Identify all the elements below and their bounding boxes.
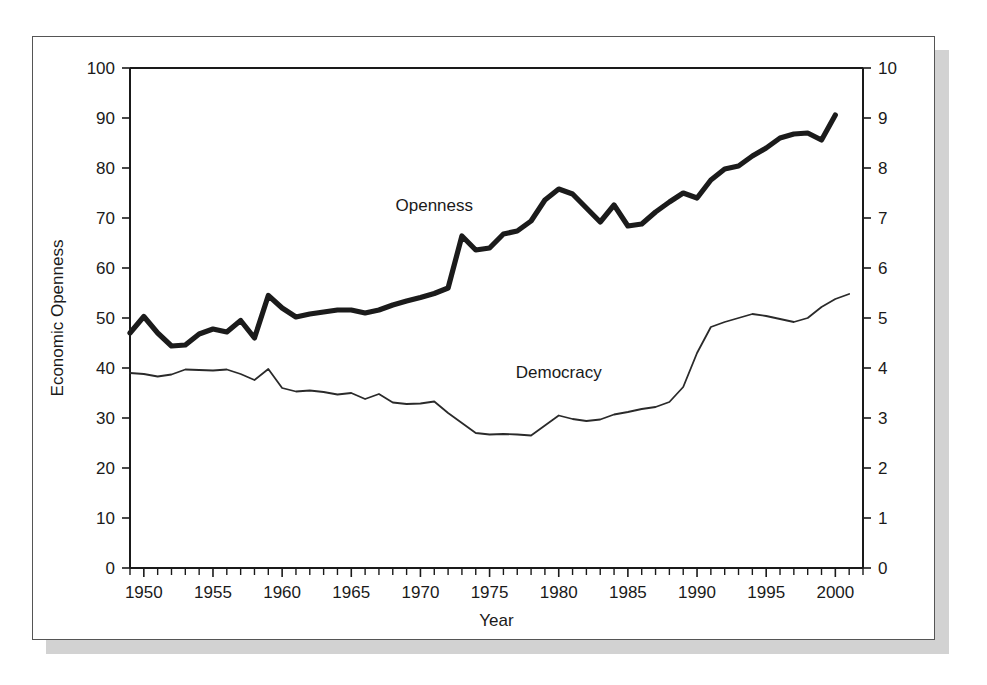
svg-text:1985: 1985	[609, 583, 647, 602]
svg-text:50: 50	[96, 309, 115, 328]
svg-text:0: 0	[106, 559, 115, 578]
series-line-democracy	[130, 294, 849, 436]
svg-text:60: 60	[96, 259, 115, 278]
svg-text:1990: 1990	[678, 583, 716, 602]
dual-axis-line-chart: 1950195519601965197019751980198519901995…	[33, 37, 936, 641]
svg-text:Year: Year	[479, 611, 514, 630]
svg-text:40: 40	[96, 359, 115, 378]
svg-text:100: 100	[87, 59, 115, 78]
svg-text:1995: 1995	[747, 583, 785, 602]
svg-text:3: 3	[878, 409, 887, 428]
svg-text:4: 4	[878, 359, 887, 378]
svg-text:30: 30	[96, 409, 115, 428]
y-axis-right-ticks	[863, 68, 871, 568]
svg-text:80: 80	[96, 159, 115, 178]
plot-area: 1950195519601965197019751980198519901995…	[33, 37, 936, 641]
svg-text:1950: 1950	[125, 583, 163, 602]
svg-text:5: 5	[878, 309, 887, 328]
figure-stage: 1950195519601965197019751980198519901995…	[0, 0, 987, 685]
y-axis-left-ticks	[122, 68, 130, 568]
svg-text:2000: 2000	[816, 583, 854, 602]
svg-text:70: 70	[96, 209, 115, 228]
svg-text:1: 1	[878, 509, 887, 528]
svg-text:1980: 1980	[540, 583, 578, 602]
svg-text:8: 8	[878, 159, 887, 178]
svg-text:0: 0	[878, 559, 887, 578]
svg-text:10: 10	[878, 59, 897, 78]
svg-text:1970: 1970	[402, 583, 440, 602]
svg-text:20: 20	[96, 459, 115, 478]
svg-text:Openness: Openness	[396, 196, 474, 215]
svg-text:Democracy: Democracy	[516, 363, 602, 382]
series-line-openness	[130, 115, 835, 346]
svg-text:9: 9	[878, 109, 887, 128]
figure-frame: 1950195519601965197019751980198519901995…	[32, 36, 935, 640]
svg-text:10: 10	[96, 509, 115, 528]
svg-text:Economic Openness: Economic Openness	[48, 240, 67, 397]
svg-text:90: 90	[96, 109, 115, 128]
svg-text:1960: 1960	[263, 583, 301, 602]
svg-text:7: 7	[878, 209, 887, 228]
svg-text:2: 2	[878, 459, 887, 478]
svg-text:1975: 1975	[471, 583, 509, 602]
svg-text:1965: 1965	[332, 583, 370, 602]
x-axis-ticks	[130, 568, 863, 577]
svg-text:6: 6	[878, 259, 887, 278]
svg-text:1955: 1955	[194, 583, 232, 602]
